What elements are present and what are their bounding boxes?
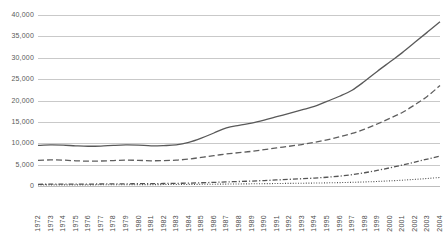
y-tick-label: 35,000 [11, 32, 34, 40]
series-line-solid [38, 22, 440, 146]
series-line-dashdot [38, 156, 440, 184]
x-tick-label: 2000 [386, 215, 393, 232]
x-tick-label: 1982 [160, 215, 167, 232]
x-tick-label: 1976 [84, 215, 91, 232]
x-tick-label: 1986 [210, 215, 217, 232]
x-tick-label: 1985 [197, 215, 204, 232]
series-line-dashed [38, 86, 440, 162]
series-layer [38, 15, 440, 186]
x-tick-label: 1988 [235, 215, 242, 232]
x-tick-label: 1984 [185, 215, 192, 232]
x-tick-label: 1990 [260, 215, 267, 232]
y-tick-label: 10,000 [11, 139, 34, 147]
x-tick-label: 1978 [109, 215, 116, 232]
x-tick-label: 1994 [310, 215, 317, 232]
y-tick-label: 15,000 [11, 118, 34, 126]
y-tick-label: 40,000 [11, 11, 34, 19]
x-tick-label: 1983 [172, 215, 179, 232]
x-tick-label: 1999 [373, 215, 380, 232]
x-tick-label: 2003 [423, 215, 430, 232]
y-tick-label: 30,000 [11, 54, 34, 62]
x-tick-label: 1972 [34, 215, 41, 232]
y-tick-label: 25,000 [11, 75, 34, 83]
x-tick-label: 1993 [298, 215, 305, 232]
x-tick-label: 1979 [122, 215, 129, 232]
x-tick-label: 1977 [97, 215, 104, 232]
x-tick-label: 1975 [72, 215, 79, 232]
x-tick-label: 1992 [285, 215, 292, 232]
gridline [38, 186, 440, 187]
y-tick-label: 20,000 [11, 97, 34, 105]
y-axis: 40,00035,00030,00025,00020,00015,00010,0… [0, 0, 34, 232]
x-tick-label: 1996 [336, 215, 343, 232]
x-tick-label: 1973 [47, 215, 54, 232]
x-tick-label: 1989 [248, 215, 255, 232]
plot-area [38, 15, 440, 186]
x-tick-label: 2002 [411, 215, 418, 232]
x-tick-label: 1997 [348, 215, 355, 232]
x-tick-label: 1981 [147, 215, 154, 232]
x-tick-label: 1998 [361, 215, 368, 232]
x-tick-label: 1987 [222, 215, 229, 232]
x-tick-label: 2004 [436, 215, 443, 232]
x-tick-label: 1974 [59, 215, 66, 232]
x-tick-label: 1980 [135, 215, 142, 232]
x-tick-label: 1995 [323, 215, 330, 232]
x-axis: 1972197319741975197619771978197919801981… [38, 188, 440, 232]
y-tick-label: 0 [30, 182, 34, 190]
y-tick-label: 5,000 [15, 161, 34, 169]
x-tick-label: 1991 [273, 215, 280, 232]
x-tick-label: 2001 [398, 215, 405, 232]
